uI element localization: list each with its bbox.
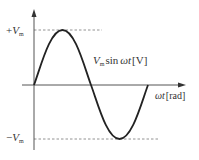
max-label: +Vm — [6, 24, 24, 37]
curve-label: Vmsinωt[V] — [93, 54, 147, 67]
min-label: −Vm — [6, 131, 24, 144]
x-axis-label: ωt[rad] — [155, 90, 185, 101]
sine-wave-diagram: +Vm −Vm Vmsinωt[V] ωt[rad] — [0, 0, 199, 160]
x-axis-arrow-icon — [178, 83, 186, 88]
y-axis-arrow-icon — [32, 9, 37, 17]
